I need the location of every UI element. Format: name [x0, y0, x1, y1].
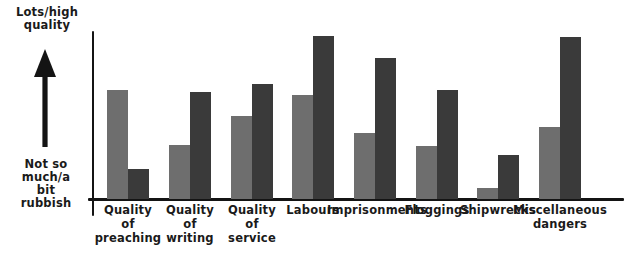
bar-series-b: [190, 92, 211, 199]
bar-series-a: [107, 90, 128, 199]
x-axis-category-labels: QualityofpreachingQualityofwritingQualit…: [0, 203, 627, 267]
bar-group: [107, 0, 149, 199]
bar-series-a: [539, 127, 560, 199]
bar-series-a: [292, 95, 313, 199]
bar-series-a: [354, 133, 375, 199]
bar-series-a: [416, 146, 437, 199]
bar-series-b: [128, 169, 149, 199]
bar-group: [292, 0, 334, 199]
category-label: Miscellaneousdangers: [512, 203, 608, 231]
bar-series-b: [437, 90, 458, 199]
bar-group: [477, 0, 519, 199]
bar-series-b: [560, 37, 581, 199]
plot-area: [0, 0, 627, 199]
bar-group: [169, 0, 211, 199]
bar-series-b: [313, 36, 334, 199]
bar-series-a: [231, 116, 252, 199]
category-label-line: service: [204, 231, 300, 245]
bar-series-a: [477, 188, 498, 199]
bar-series-a: [169, 145, 190, 199]
bar-group: [539, 0, 581, 199]
bar-group: [354, 0, 396, 199]
bar-series-b: [498, 155, 519, 199]
bar-series-b: [252, 84, 273, 199]
bar-group: [416, 0, 458, 199]
bar-group: [231, 0, 273, 199]
category-label-line: of: [204, 217, 300, 231]
bar-chart: Lots/high quality Not so much/a bit rubb…: [0, 0, 627, 270]
category-label-line: dangers: [512, 217, 608, 231]
category-label-line: Miscellaneous: [512, 203, 608, 217]
bar-series-b: [375, 58, 396, 199]
